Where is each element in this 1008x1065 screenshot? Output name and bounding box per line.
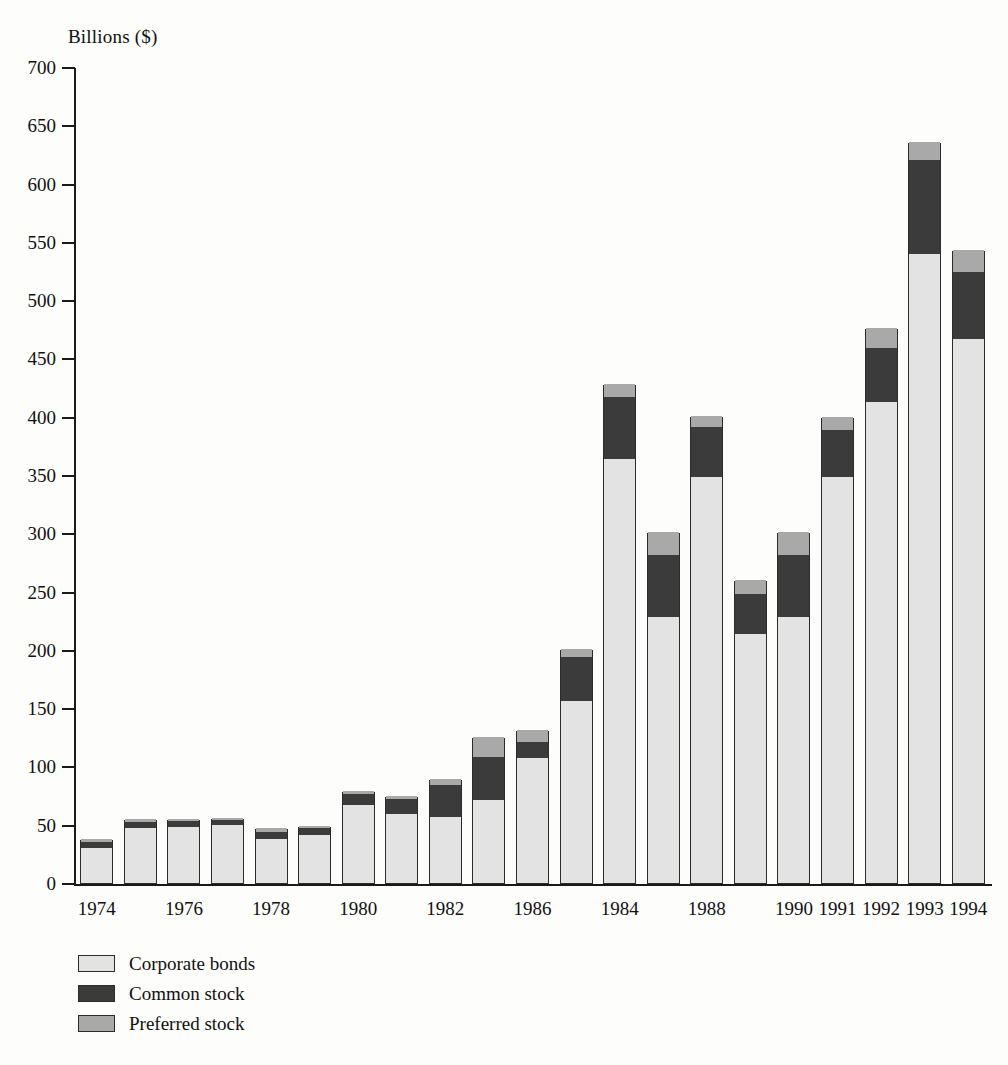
y-tick-0 [62,883,75,885]
y-tick-label: 150 [28,698,57,720]
bar-segment-common-stock [953,272,984,338]
y-tick-600 [62,184,75,186]
bar-segment-preferred-stock [953,250,984,272]
y-tick-label: 300 [28,523,57,545]
bar-segment-common-stock [866,348,897,402]
bar-1982 [429,780,462,884]
y-tick-550 [62,242,75,244]
y-tick-50 [62,825,75,827]
bar-segment-preferred-stock [517,730,548,742]
bar-1991 [821,418,854,884]
x-axis-line [74,884,992,886]
bar-1979 [298,827,331,884]
bar-1977 [211,819,244,884]
bar-segment-common-stock [81,842,112,848]
y-tick-450 [62,358,75,360]
bar-segment-common-stock [735,594,766,634]
bar-segment-corporate-bonds [81,848,112,883]
legend-swatch-icon [78,955,115,972]
bar-segment-corporate-bonds [953,339,984,883]
y-tick-400 [62,417,75,419]
bar-segment-corporate-bonds [735,634,766,883]
bar-segment-common-stock [386,799,417,814]
y-tick-label: 100 [28,756,57,778]
bar-1975 [124,820,157,884]
bar-segment-preferred-stock [735,580,766,594]
bar-segment-preferred-stock [604,384,635,397]
y-tick-label: 450 [28,348,57,370]
bar-segment-corporate-bonds [778,617,809,883]
bar-1986 [516,731,549,884]
bar-segment-common-stock [822,430,853,478]
bar-segment-corporate-bonds [604,459,635,883]
bar-segment-preferred-stock [866,328,897,348]
bar-segment-corporate-bonds [866,402,897,883]
bar-segment-preferred-stock [386,796,417,799]
y-tick-label: 700 [28,57,57,79]
bar-segment-preferred-stock [343,791,374,794]
bar-1978 [255,829,288,884]
x-axis-label-1992: 1992 [862,898,900,920]
bar-segment-common-stock [343,794,374,804]
bar-1974 [80,840,113,884]
bar-segment-corporate-bonds [909,254,940,883]
y-tick-350 [62,475,75,477]
x-axis-label-1988: 1988 [688,898,726,920]
x-axis-label-1978: 1978 [252,898,290,920]
bar-segment-preferred-stock [212,818,243,820]
bar-1985 [560,650,593,884]
legend-label: Common stock [129,984,245,1003]
x-axis-label-1986: 1986 [514,898,552,920]
bar-segment-common-stock [125,822,156,828]
x-axis-label-1991: 1991 [819,898,857,920]
y-axis-title: Billions ($) [68,26,158,48]
plot-area [75,68,990,884]
bar-1984 [603,385,636,884]
x-axis-label-1984: 1984 [601,898,639,920]
bar-segment-preferred-stock [778,532,809,555]
bar-segment-corporate-bonds [691,477,722,883]
legend-item: Common stock [78,980,255,1006]
chart-legend: Corporate bondsCommon stockPreferred sto… [78,950,255,1040]
bar-segment-corporate-bonds [473,800,504,883]
bar-1993 [908,143,941,884]
x-axis-label-1993: 1993 [906,898,944,920]
y-tick-100 [62,766,75,768]
bar-segment-corporate-bonds [168,827,199,883]
bar-segment-preferred-stock [648,532,679,555]
y-tick-label: 200 [28,640,57,662]
bar-segment-corporate-bonds [125,828,156,883]
bar-1994 [952,251,985,884]
bar-segment-corporate-bonds [648,617,679,883]
x-axis-label-1982: 1982 [426,898,464,920]
bar-segment-preferred-stock [430,779,461,785]
bar-segment-corporate-bonds [822,477,853,883]
bar-1981 [385,797,418,884]
bar-segment-preferred-stock [561,649,592,657]
bar-segment-common-stock [299,828,330,835]
chart-container: Billions ($) 700650600550500450400350300… [0,0,1008,1065]
bar-segment-preferred-stock [909,142,940,161]
bar-segment-common-stock [256,832,287,839]
bar-segment-common-stock [430,785,461,816]
y-tick-label: 50 [37,815,56,837]
bar-segment-common-stock [648,555,679,617]
bar-segment-corporate-bonds [256,839,287,883]
bar-segment-common-stock [561,657,592,701]
bar-segment-corporate-bonds [517,758,548,883]
bar-segment-preferred-stock [125,819,156,822]
bar-1983 [472,738,505,884]
legend-item: Preferred stock [78,1010,255,1036]
x-axis-label-1974: 1974 [78,898,116,920]
y-tick-label: 600 [28,174,57,196]
bar-1987 [647,533,680,884]
bar-1976 [167,820,200,884]
bar-segment-preferred-stock [822,417,853,430]
y-tick-300 [62,533,75,535]
bar-segment-corporate-bonds [212,825,243,883]
y-tick-label: 650 [28,115,57,137]
bar-1989 [734,581,767,884]
bar-segment-preferred-stock [168,819,199,821]
x-axis-label-1994: 1994 [949,898,987,920]
x-axis-label-1980: 1980 [339,898,377,920]
